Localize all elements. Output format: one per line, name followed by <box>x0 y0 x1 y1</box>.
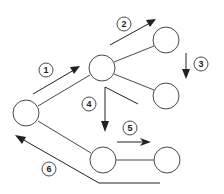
step-badge-2: 2 <box>117 17 131 31</box>
svg-text:1: 1 <box>43 65 48 75</box>
svg-text:2: 2 <box>121 19 126 29</box>
step-badge-3: 3 <box>194 57 208 71</box>
svg-text:4: 4 <box>86 99 91 109</box>
arrow-step-5 <box>117 138 151 146</box>
step-badge-4: 4 <box>82 97 96 111</box>
svg-text:3: 3 <box>198 59 203 69</box>
edge-a-b <box>114 46 154 62</box>
svg-text:6: 6 <box>46 164 51 174</box>
step-badge-5: 5 <box>123 121 137 135</box>
tree-node-b <box>153 27 179 53</box>
step-badge-1: 1 <box>39 63 53 77</box>
tree-node-a <box>89 55 115 81</box>
tree-node-d <box>90 147 116 173</box>
step-badge-6: 6 <box>42 162 56 176</box>
tree-traversal-diagram: 1 2 3 4 5 6 <box>0 0 224 194</box>
edge-a-c <box>114 74 154 90</box>
tree-node-root <box>13 100 39 126</box>
edge-root-d <box>38 121 91 153</box>
tree-node-e <box>154 147 180 173</box>
arrow-step-3 <box>182 53 190 79</box>
tree-node-c <box>153 83 179 109</box>
svg-text:5: 5 <box>127 123 132 133</box>
